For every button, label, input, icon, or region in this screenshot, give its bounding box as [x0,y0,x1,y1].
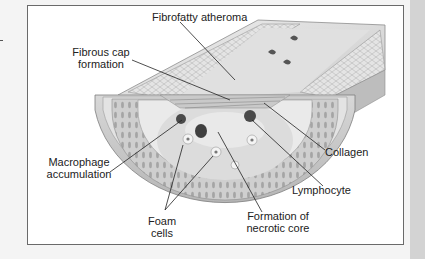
label-foam-cells: Foam cells [144,215,180,239]
label-fibrous-cap-formation: Fibrous cap formation [69,46,133,70]
label-necrotic-line1: Formation of [238,210,318,222]
label-necrotic-core: Formation of necrotic core [238,210,318,234]
label-macrophage-line1: Macrophage [44,156,114,168]
label-fibrofatty-atheroma: Fibrofatty atheroma [152,11,247,23]
label-collagen: Collagen [325,146,368,158]
label-foam-line1: Foam [144,215,180,227]
label-fibrous-cap-line2: formation [69,58,133,70]
label-fibrous-cap-line1: Fibrous cap [69,46,133,58]
label-lymphocyte: Lymphocyte [292,184,351,196]
label-necrotic-line2: necrotic core [238,222,318,234]
artery-illustration [0,0,425,259]
label-foam-line2: cells [144,227,180,239]
label-macrophage-line2: accumulation [44,168,114,180]
label-macrophage-accumulation: Macrophage accumulation [44,156,114,180]
